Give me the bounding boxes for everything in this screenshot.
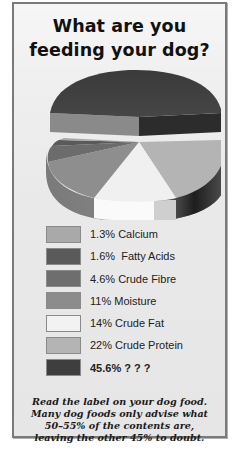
legend-item-crude-fat: 14% Crude Fat bbox=[46, 313, 183, 333]
legend-swatch bbox=[46, 315, 81, 332]
chart-title: What are you feeding your dog? bbox=[14, 14, 225, 62]
legend-label: 22% Crude Protein bbox=[90, 339, 183, 351]
legend-label: 1.6% Fatty Acids bbox=[90, 250, 175, 262]
legend-swatch bbox=[46, 292, 81, 309]
slice-unknown bbox=[50, 70, 221, 136]
caption-line: leaving the other 45% to doubt. bbox=[14, 432, 225, 444]
legend-label: 14% Crude Fat bbox=[90, 317, 164, 329]
legend-item-crude-fibre: 4.6% Crude Fibre bbox=[46, 269, 183, 289]
legend-swatch bbox=[46, 248, 81, 265]
legend-item-crude-protein: 22% Crude Protein bbox=[46, 335, 183, 355]
legend-item-unknown: 45.6% ? ? ? bbox=[46, 358, 183, 378]
legend-swatch bbox=[46, 359, 81, 376]
legend-swatch bbox=[46, 270, 81, 287]
legend-label: 1.3% Calcium bbox=[90, 228, 158, 240]
legend-swatch bbox=[46, 337, 81, 354]
chart-legend: 1.3% Calcium 1.6% Fatty Acids 4.6% Crude… bbox=[46, 224, 183, 380]
caption-line: 50–55% of the contents are, bbox=[14, 420, 225, 432]
legend-item-fatty-acids: 1.6% Fatty Acids bbox=[46, 246, 183, 266]
legend-item-calcium: 1.3% Calcium bbox=[46, 224, 183, 244]
caption-line: Many dog foods only advise what bbox=[14, 408, 225, 420]
legend-swatch bbox=[46, 226, 81, 243]
title-line-2: feeding your dog? bbox=[14, 38, 225, 62]
infographic-panel: What are you feeding your dog? bbox=[12, 2, 227, 438]
legend-label: 4.6% Crude Fibre bbox=[90, 273, 176, 285]
legend-label: 11% Moisture bbox=[90, 295, 156, 307]
legend-item-moisture: 11% Moisture bbox=[46, 291, 183, 311]
pie-body bbox=[46, 138, 221, 220]
legend-label: 45.6% ? ? ? bbox=[90, 362, 151, 374]
caption-line: Read the label on your dog food. bbox=[14, 396, 225, 408]
title-line-1: What are you bbox=[14, 14, 225, 38]
pie-chart bbox=[26, 70, 221, 220]
caption: Read the label on your dog food. Many do… bbox=[14, 396, 225, 444]
